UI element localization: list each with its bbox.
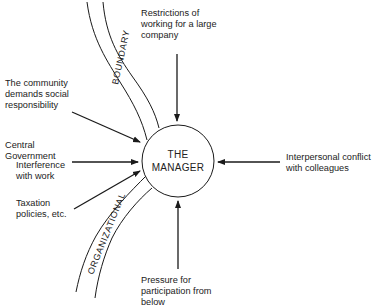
label-below: Pressure for participation from below — [141, 275, 211, 307]
label-community: The community demands social responsibil… — [5, 78, 69, 111]
label-restrictions: Restrictions of working for a large comp… — [141, 8, 217, 41]
boundary-label-top: BOUNDARY — [110, 29, 131, 86]
arrow-community — [72, 112, 140, 142]
manager-label-line2: MANAGER — [148, 161, 208, 174]
manager-label: THE MANAGER — [148, 148, 208, 174]
label-taxation: Taxation policies, etc. — [16, 198, 67, 220]
boundary-label-bottom: ORGANIZATIONAL — [86, 191, 128, 276]
arrow-taxation — [74, 171, 140, 209]
label-colleagues: Interpersonal conflict with colleagues — [286, 152, 371, 174]
label-government: Central Government — [5, 140, 56, 162]
manager-label-line1: THE — [148, 148, 208, 161]
label-interference: Interference with work — [16, 160, 65, 182]
